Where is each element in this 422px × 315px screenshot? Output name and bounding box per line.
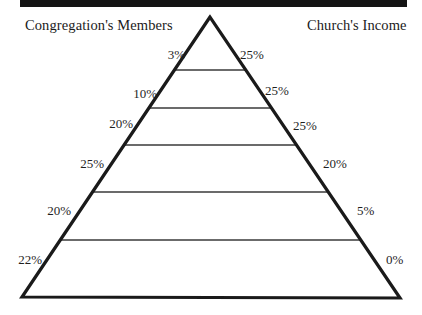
right-percent-label-level-3: 25% — [293, 118, 317, 134]
pyramid-diagram — [0, 0, 422, 315]
right-percent-label-level-1: 25% — [240, 47, 264, 63]
left-percent-label-level-3: 20% — [109, 116, 133, 132]
left-percent-label-level-5: 20% — [47, 203, 71, 219]
right-percent-label-level-5: 5% — [357, 203, 374, 219]
right-percent-label-level-6: 0% — [386, 252, 403, 268]
left-percent-label-level-6: 22% — [18, 252, 42, 268]
right-percent-label-level-2: 25% — [265, 83, 289, 99]
left-percent-label-level-2: 10% — [133, 86, 157, 102]
pyramid-chart-figure: Congregation's Members Church's Income 3… — [0, 0, 422, 315]
right-percent-label-level-4: 20% — [323, 156, 347, 172]
left-percent-label-level-4: 25% — [80, 156, 104, 172]
pyramid-divider-lines — [60, 70, 361, 240]
left-percent-label-level-1: 3% — [168, 47, 185, 63]
